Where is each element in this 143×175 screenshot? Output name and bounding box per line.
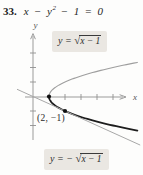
textbook-figure: 33.x − y2 − 1 = 0 x y y = √x − 1 y = − √… bbox=[0, 0, 143, 175]
x-axis-label: x bbox=[132, 92, 137, 102]
plotted-curves bbox=[17, 62, 140, 145]
y-axis-label: y bbox=[33, 20, 38, 30]
tangent-line bbox=[17, 89, 140, 145]
graph-figure: x y y = √x − 1 y = − √x − 1 (2, −1) bbox=[0, 0, 143, 175]
point-annotation: (2, −1) bbox=[37, 113, 65, 123]
upper-branch-curve bbox=[49, 62, 137, 96]
radicand: x − 1 bbox=[79, 35, 101, 46]
upper-branch-label: y = √x − 1 bbox=[52, 31, 107, 52]
lower-branch-label: y = − √x − 1 bbox=[44, 149, 109, 170]
radicand: x − 1 bbox=[80, 153, 102, 164]
point-dot bbox=[47, 94, 51, 98]
